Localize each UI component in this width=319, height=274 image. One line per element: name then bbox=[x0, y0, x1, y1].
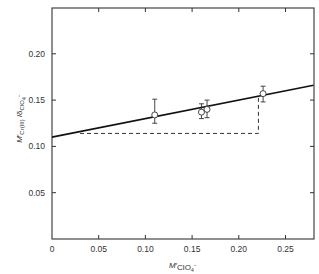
data-point bbox=[204, 100, 210, 118]
x-tick-label: 0.20 bbox=[231, 244, 248, 254]
open-circle-marker bbox=[204, 106, 210, 112]
open-circle-marker bbox=[260, 91, 266, 97]
plot-frame bbox=[52, 8, 314, 239]
open-circle-marker bbox=[152, 112, 158, 118]
x-tick-label: 0.25 bbox=[277, 244, 294, 254]
x-tick-label: 0.10 bbox=[137, 244, 154, 254]
x-tick-label: 0.05 bbox=[90, 244, 107, 254]
y-axis-label: M′Cr(III) /δClO4− bbox=[15, 94, 27, 143]
data-point bbox=[260, 86, 266, 102]
y-tick-label: 0.10 bbox=[28, 141, 45, 151]
fit-line bbox=[52, 85, 314, 137]
x-axis-label: M′ClO4− bbox=[169, 261, 197, 273]
data-point bbox=[198, 104, 204, 119]
open-circle-marker bbox=[198, 109, 204, 115]
y-tick-label: 0.20 bbox=[28, 49, 45, 59]
data-point bbox=[152, 99, 158, 123]
x-tick-label: 0.15 bbox=[184, 244, 201, 254]
y-tick-label: 0.15 bbox=[28, 95, 45, 105]
y-tick-label: 0.05 bbox=[28, 188, 45, 198]
x-tick-label: 0 bbox=[50, 244, 55, 254]
chart: 00.050.100.150.200.250.050.100.150.20M′C… bbox=[0, 0, 319, 274]
